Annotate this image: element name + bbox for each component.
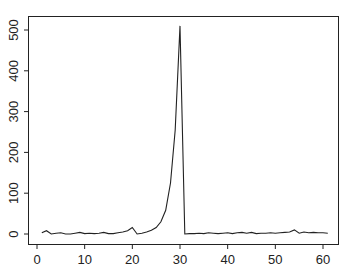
x-tick-label: 0 [33, 252, 40, 267]
x-tick-label: 30 [173, 252, 187, 267]
y-tick-label: 400 [6, 60, 21, 82]
y-tick-label: 200 [6, 142, 21, 164]
data-line [42, 26, 328, 234]
plot-frame [29, 17, 339, 245]
x-tick-label: 20 [125, 252, 139, 267]
line-chart: 0100200300400500 0102030405060 [0, 0, 351, 279]
x-tick-label: 50 [268, 252, 282, 267]
y-axis: 0100200300400500 [6, 19, 29, 237]
x-tick-label: 10 [77, 252, 91, 267]
x-axis: 0102030405060 [33, 245, 330, 268]
y-tick-label: 0 [6, 230, 21, 237]
x-tick-label: 40 [220, 252, 234, 267]
y-tick-label: 300 [6, 101, 21, 123]
y-tick-label: 100 [6, 182, 21, 204]
x-tick-label: 60 [316, 252, 330, 267]
y-tick-label: 500 [6, 19, 21, 41]
